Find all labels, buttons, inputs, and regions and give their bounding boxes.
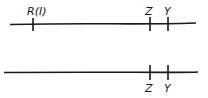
bottom-timeline: Z Y — [4, 65, 198, 95]
label-y-top: Y — [164, 5, 172, 18]
bottom-line — [4, 72, 198, 73]
label-z-top: Z — [144, 5, 153, 18]
label-r-i: R(I) — [27, 5, 46, 18]
top-timeline: R(I) Z Y — [10, 5, 196, 31]
label-z-bottom: Z — [144, 82, 153, 95]
timeline-diagram: R(I) Z Y Z Y — [0, 0, 208, 98]
label-y-bottom: Y — [164, 82, 172, 95]
